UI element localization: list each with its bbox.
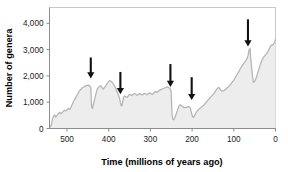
x-axis-title: Time (millions of years ago) xyxy=(101,157,222,167)
y-tick-label: 4,000 xyxy=(23,19,44,28)
x-tick-label: 200 xyxy=(185,135,199,144)
phanerozoic-genera-chart: 01,0002,0003,0004,000 5004003002001000 T… xyxy=(0,0,288,172)
y-axis-title: Number of genera xyxy=(4,28,14,108)
x-tick-label: 0 xyxy=(273,135,278,144)
x-tick-label: 400 xyxy=(102,135,116,144)
y-tick-label: 1,000 xyxy=(23,98,44,107)
y-tick-label: 0 xyxy=(39,125,44,134)
x-tick-label: 300 xyxy=(144,135,158,144)
biodiversity-chart-figure: 01,0002,0003,0004,000 5004003002001000 T… xyxy=(0,0,288,172)
x-tick-label: 500 xyxy=(60,135,74,144)
x-tick-label: 100 xyxy=(227,135,241,144)
y-tick-label: 2,000 xyxy=(23,72,44,81)
y-tick-label: 3,000 xyxy=(23,46,44,55)
